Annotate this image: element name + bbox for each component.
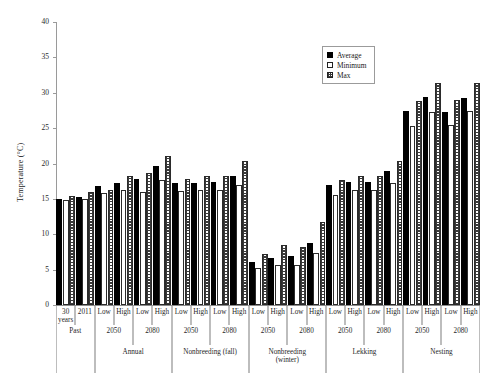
bar-max (262, 254, 268, 305)
bar-average (268, 258, 274, 305)
x-label-scenario: Low (403, 306, 422, 325)
bar-minimum (410, 126, 416, 305)
x-label-scenario: Low (133, 306, 152, 325)
bar-minimum (352, 190, 358, 305)
x-label-year: 2050 (172, 325, 211, 345)
x-label-season-sublabel: (winter) (250, 356, 325, 365)
x-label-year-label: 2050 (107, 327, 121, 335)
x-label-scenario-label: 2011 (78, 308, 92, 316)
x-label-scenario: Low (287, 306, 306, 325)
bar-minimum (121, 190, 127, 305)
x-label-year-label: Past (69, 327, 81, 335)
x-label-scenario: Low (364, 306, 383, 325)
x-label-year: 2050 (403, 325, 442, 345)
x-label-scenario-label: High (309, 308, 323, 316)
bar-group (423, 22, 441, 305)
x-label-scenario-label: Low (290, 308, 303, 316)
bar-minimum (82, 199, 88, 305)
x-label-scenario: Low (210, 306, 229, 325)
bar-max (127, 176, 133, 305)
bar-group (230, 22, 248, 305)
x-label-season-label: Annual (122, 348, 143, 356)
bar-minimum (159, 180, 165, 305)
x-label-year: 2080 (210, 325, 249, 345)
bar-group (442, 22, 460, 305)
x-label-scenario-label: Low (213, 308, 226, 316)
legend-item-label: Max (337, 71, 351, 80)
solid-black-square-icon (327, 52, 333, 58)
bar-minimum (333, 195, 339, 305)
bar-max (300, 247, 306, 305)
y-tick-label: 30 (27, 89, 49, 97)
bar-minimum (236, 185, 242, 305)
bar-minimum (467, 111, 473, 305)
bar-group (384, 22, 402, 305)
x-label-scenario: 30years (56, 306, 75, 325)
bar-average (461, 98, 467, 305)
x-label-scenario: High (191, 306, 210, 325)
y-tick-label: 25 (27, 124, 49, 132)
x-label-scenario: 2011 (75, 306, 94, 325)
bar-max (474, 83, 480, 305)
x-label-scenario-label: Low (406, 308, 419, 316)
x-label-season: Annual (95, 345, 172, 373)
bar-minimum (140, 192, 146, 305)
x-label-scenario: High (152, 306, 171, 325)
bar-group (95, 22, 113, 305)
bar-max (416, 101, 422, 305)
x-label-scenario: High (345, 306, 364, 325)
y-tick-label: 15 (27, 195, 49, 203)
legend-item: Max (327, 70, 367, 80)
bar-max (242, 161, 248, 305)
bar-max (320, 222, 326, 305)
bar-minimum (178, 191, 184, 305)
x-label-season (56, 345, 95, 373)
bar-max (377, 176, 383, 305)
bar-average (423, 97, 429, 305)
legend-item: Average (327, 50, 367, 60)
x-label-year-label: 2050 (338, 327, 352, 335)
bar-minimum (390, 183, 396, 305)
bar-group (268, 22, 286, 305)
y-tick-label: 40 (27, 18, 49, 26)
x-label-season: Lekking (326, 345, 403, 373)
x-label-scenario-label: Low (329, 308, 342, 316)
x-label-year-label: 2050 (184, 327, 198, 335)
x-label-scenario-label: High (386, 308, 400, 316)
y-axis-title: Temperature (°C) (16, 142, 25, 201)
legend-item-label: Minimum (337, 61, 367, 70)
x-label-year-label: 2050 (415, 327, 429, 335)
bar-minimum (198, 190, 204, 305)
x-label-year-label: 2080 (222, 327, 236, 335)
bar-average (134, 179, 140, 305)
bar-average (403, 111, 409, 305)
bar-average (114, 183, 120, 305)
x-label-year: Past (56, 325, 95, 345)
bar-max (339, 180, 345, 305)
bar-minimum (448, 125, 454, 305)
bar-average (95, 186, 101, 305)
bar-average (172, 183, 178, 305)
plot-area (56, 22, 480, 305)
x-label-season-label: Nonbreeding (268, 348, 306, 356)
bar-minimum (217, 190, 223, 305)
bar-minimum (255, 268, 261, 305)
x-label-year-label: 2080 (299, 327, 313, 335)
x-label-year: 2080 (133, 325, 172, 345)
bar-group (288, 22, 306, 305)
x-label-year: 2080 (287, 325, 326, 345)
bar-group (249, 22, 267, 305)
bar-max (204, 176, 210, 305)
x-label-scenario: High (422, 306, 441, 325)
bar-minimum (294, 265, 300, 305)
bar-max (165, 156, 171, 305)
x-label-scenario: Low (441, 306, 460, 325)
x-label-scenario-sublabel: years (57, 316, 74, 325)
y-tick-label: 10 (27, 230, 49, 238)
bar-average (346, 182, 352, 305)
y-tick-label: 5 (27, 266, 49, 274)
bar-average (288, 256, 294, 305)
legend-item: Minimum (327, 60, 367, 70)
x-label-scenario-label: High (270, 308, 284, 316)
x-label-scenario-label: High (348, 308, 362, 316)
